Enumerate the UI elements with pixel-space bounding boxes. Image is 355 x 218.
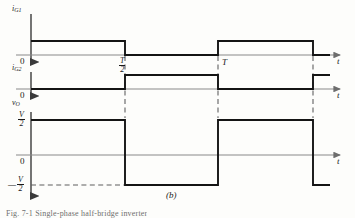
waveform-ig1 xyxy=(31,41,330,55)
tick-label-half-period: T2 xyxy=(119,57,125,75)
waveform-vo xyxy=(31,120,330,185)
zero-label-vo: 0 xyxy=(20,157,25,166)
amplitude-label-positive-half-v: V2 xyxy=(18,111,25,129)
time-axis-label-vo: t xyxy=(337,157,340,166)
amplitude-label-negative-half-v: —V2 xyxy=(8,176,24,194)
waveform-figure xyxy=(0,0,355,218)
waveform-ig2 xyxy=(31,75,330,89)
panel-caption: (b) xyxy=(166,191,177,200)
axis-label-ig1: iG1 xyxy=(12,5,22,13)
time-axis-label-ig1: t xyxy=(337,57,340,66)
figure-bottom-caption: Fig. 7-1 Single-phase half-bridge invert… xyxy=(6,209,147,218)
tick-label-period: T xyxy=(222,58,227,67)
axis-label-vo: vO xyxy=(12,99,20,107)
time-axis-label-ig2: t xyxy=(337,91,340,100)
axis-label-ig2: iG2 xyxy=(12,64,22,72)
zero-label-ig2: 0 xyxy=(20,91,25,100)
